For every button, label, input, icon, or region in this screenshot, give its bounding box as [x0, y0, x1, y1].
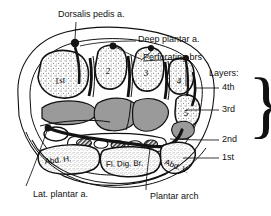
layer-item-4th: 4th [222, 83, 235, 92]
dorsalis-pedis-vessel [71, 39, 79, 47]
callout-perforating-brs: Perforating brs [143, 53, 202, 62]
layer-item-1st: 1st [222, 153, 234, 162]
callout-plantar-arch: Plantar arch [150, 192, 199, 201]
metatarsal-label-1: 1st [54, 75, 66, 86]
perforating-branch-3 [148, 45, 154, 51]
layers-brace: } [248, 70, 271, 138]
lateral-plantar-artery-vessel [45, 125, 52, 132]
callout-dorsalis-pedis: Dorsalis pedis a. [58, 10, 125, 19]
layer-item-2nd: 2nd [222, 135, 237, 144]
perforating-branch-2 [110, 43, 117, 50]
callout-deep-plantar: Deep plantar a. [138, 35, 200, 44]
layer-item-3rd: 3rd [222, 105, 235, 114]
callout-lat-plantar: Lat. plantar a. [33, 190, 88, 199]
figure-container: 1st 2 3 4 5 Abd. H. Fl. Dig. Br. Abd. V. [0, 0, 271, 216]
layers-heading: Layers: [209, 69, 239, 78]
muscle-label-fl-dig-br: Fl. Dig. Br. [106, 159, 144, 169]
